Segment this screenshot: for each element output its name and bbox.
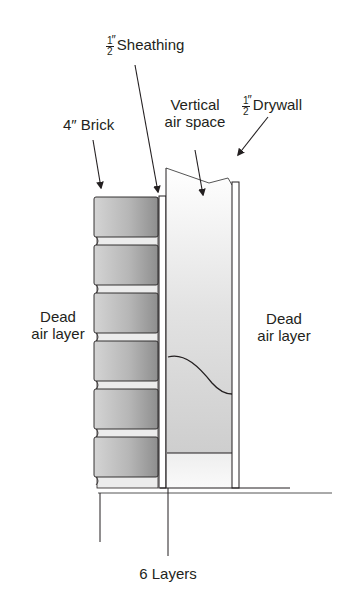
six-layers-caption: 6 Layers (118, 565, 218, 582)
dead-air-layer-left-label: Dead air layer (18, 308, 98, 342)
drywall-label: 1 2 ″Drywall (242, 92, 302, 117)
brick (94, 197, 158, 237)
air-space-bottom-plate (167, 453, 232, 488)
dead-air-layer-right-label: Dead air layer (244, 310, 324, 344)
drywall-layer (232, 182, 239, 488)
vertical-air-space-panel (166, 168, 232, 488)
brick (94, 389, 158, 429)
drywall-arrow (238, 117, 268, 155)
brick-arrow (93, 140, 101, 188)
sheathing-label: 1 2 ″Sheathing (106, 32, 184, 57)
brick (94, 245, 158, 285)
brick (94, 293, 158, 333)
sheathing-layer (159, 196, 166, 488)
brick-label: 4″ Brick (63, 116, 114, 133)
brick (94, 437, 158, 477)
vertical-air-space-label: Vertical air space (154, 96, 236, 130)
brick (94, 341, 158, 381)
